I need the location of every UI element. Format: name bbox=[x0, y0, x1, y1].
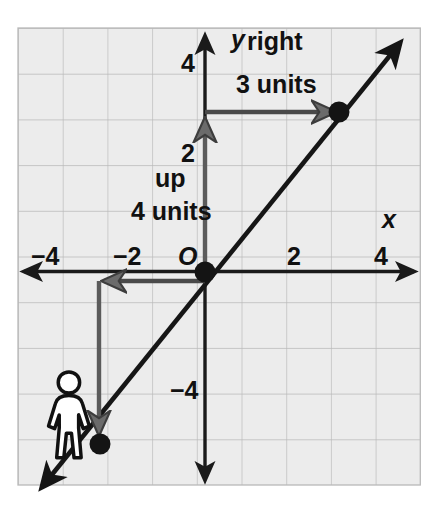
y-axis-label: y bbox=[231, 27, 245, 52]
y-tick-4: 4 bbox=[181, 51, 195, 76]
callout-right-line1: right bbox=[247, 29, 303, 54]
figure-canvas: y x O −4 −2 2 4 4 2 −4 right 3 units up … bbox=[0, 0, 442, 512]
callout-right-line2: 3 units bbox=[236, 72, 317, 97]
x-tick-minus2: −2 bbox=[113, 244, 142, 269]
callout-up-line1: up bbox=[155, 166, 186, 191]
y-tick-2: 2 bbox=[181, 141, 195, 166]
marked-point-origin bbox=[195, 262, 216, 283]
x-axis-label: x bbox=[382, 207, 396, 232]
marked-point-3-3 bbox=[329, 102, 350, 123]
x-tick-2: 2 bbox=[287, 244, 301, 269]
y-tick-minus4: −4 bbox=[170, 378, 199, 403]
callout-up-line2: 4 units bbox=[131, 199, 212, 224]
x-tick-4: 4 bbox=[374, 244, 388, 269]
marked-point-neg3-neg4 bbox=[90, 434, 111, 455]
x-tick-minus4: −4 bbox=[31, 244, 60, 269]
origin-label: O bbox=[178, 244, 197, 269]
